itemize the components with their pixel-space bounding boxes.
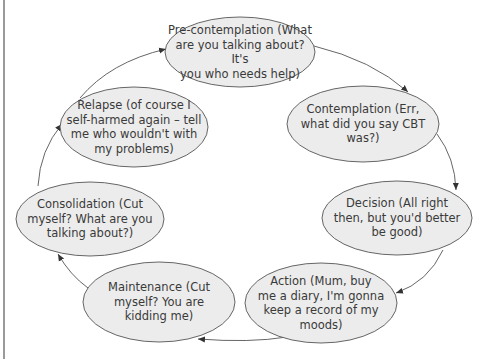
node-consolidation-label: Consolidation (Cut myself? What are you … (18, 182, 162, 256)
node-contemplation-label: Contemplation (Err, what did you say CBT… (289, 87, 437, 161)
arrow-precontemplation-to-contemplation (314, 46, 408, 92)
node-pre-contemplation-label: Pre-contemplation (What are you talking … (167, 18, 313, 86)
arrow-maintenance-to-consolidation (58, 254, 88, 288)
node-maintenance-label: Maintenance (Cut myself? You are kidding… (85, 262, 233, 342)
node-decision-label: Decision (All right then, but you'd bett… (324, 181, 470, 255)
arrow-decision-to-action (396, 250, 443, 293)
node-action-label: Action (Mum, buy me a diary, I'm gonna k… (247, 263, 395, 343)
node-relapse-label: Relapse (of course I self-harmed again –… (62, 87, 206, 167)
arrow-consolidation-to-relapse (38, 124, 62, 186)
